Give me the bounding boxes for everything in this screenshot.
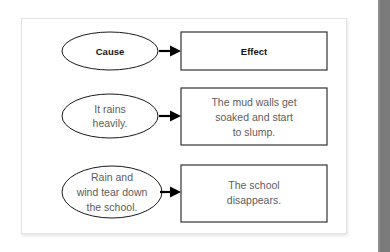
- effect-label-row-1-line-3: to slump.: [233, 126, 276, 138]
- effect-label-row-2-line-1: The school: [228, 179, 279, 191]
- cause-ellipse-row-1[interactable]: [62, 94, 158, 138]
- page-right-edge-highlight: [378, 0, 380, 252]
- effect-label-row-1-line-1: The mud walls get: [211, 96, 296, 108]
- cause-label-row-2-line-1: Rain and: [91, 171, 133, 183]
- arrow-head-icon-row-1: [170, 111, 181, 122]
- diagram-row-1: It rains heavily. The mud walls get soak…: [62, 88, 327, 145]
- cause-label-row-2-line-3: the school.: [87, 201, 138, 213]
- cause-label-row-2-line-2: wind tear down: [76, 186, 148, 198]
- cause-label-header: Cause: [96, 46, 125, 57]
- cause-effect-diagram: Cause Effect It rains heavily. The mud w…: [0, 0, 390, 252]
- effect-label-row-1-line-2: soaked and start: [215, 111, 293, 123]
- arrow-head-icon-row-2: [170, 187, 181, 198]
- cause-label-row-1-line-2: heavily.: [93, 117, 128, 129]
- page-root: Cause Effect It rains heavily. The mud w…: [0, 0, 390, 252]
- arrow-head-icon-header: [170, 46, 181, 57]
- diagram-row-header: Cause Effect: [62, 32, 327, 70]
- effect-label-row-2-line-2: disappears.: [227, 194, 281, 206]
- effect-label-header: Effect: [241, 46, 268, 57]
- diagram-row-2: Rain and wind tear down the school. The …: [62, 165, 327, 222]
- cause-label-row-1-line-1: It rains: [94, 103, 126, 115]
